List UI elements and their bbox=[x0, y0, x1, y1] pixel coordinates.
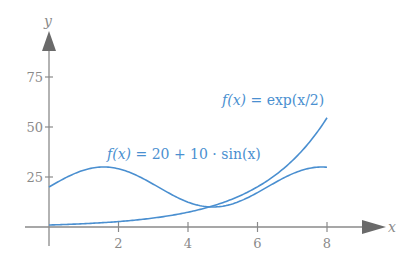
sin-curve bbox=[49, 167, 327, 207]
y-tick-label: 75 bbox=[26, 70, 43, 85]
x-axis-label: x bbox=[388, 219, 396, 235]
x-tick-label: 4 bbox=[184, 236, 192, 251]
y-tick-label: 25 bbox=[26, 170, 43, 185]
y-axis-label: y bbox=[43, 13, 53, 29]
sin-annotation: f(x) = 20 + 10 · sin(x) bbox=[106, 146, 261, 162]
x-tick-label: 8 bbox=[323, 236, 331, 251]
y-tick-label: 50 bbox=[26, 120, 43, 135]
exp-annotation-rhs: = exp(x/2) bbox=[246, 92, 324, 108]
x-axis-arrow-icon bbox=[362, 220, 386, 234]
sin-annotation-rhs: = 20 + 10 · sin(x) bbox=[131, 146, 261, 162]
function-plot: y x 25 50 75 2 4 6 8 f(x) = exp(x/2) f(x… bbox=[0, 0, 412, 265]
x-tick-label: 6 bbox=[253, 236, 261, 251]
x-tick-label: 2 bbox=[114, 236, 122, 251]
exp-annotation-fx: f(x) bbox=[221, 92, 246, 108]
sin-annotation-fx: f(x) bbox=[106, 146, 131, 162]
y-axis-arrow-icon bbox=[42, 31, 56, 51]
exp-annotation: f(x) = exp(x/2) bbox=[221, 92, 324, 108]
exp-curve bbox=[49, 118, 327, 225]
